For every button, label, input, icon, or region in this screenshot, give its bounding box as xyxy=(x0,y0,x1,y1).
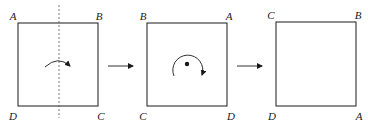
label-p3-top-left: C xyxy=(267,10,274,21)
label-p2-top-right: A xyxy=(226,11,233,22)
label-p2-top-left: B xyxy=(140,11,147,22)
panel-1 xyxy=(18,5,98,118)
label-p3-top-right: B xyxy=(355,10,362,21)
label-p3-bottom-right: A xyxy=(356,111,363,122)
label-p1-top-right: B xyxy=(96,11,103,22)
label-p1-bottom-left: D xyxy=(9,111,17,122)
flip-arrow-icon xyxy=(45,61,70,67)
diagram-canvas xyxy=(0,0,368,135)
center-point xyxy=(185,62,189,66)
label-p1-top-left: A xyxy=(10,11,17,22)
panel-3 xyxy=(276,22,356,106)
label-p2-bottom-right: D xyxy=(227,111,235,122)
square-3 xyxy=(276,22,356,106)
label-p1-bottom-right: C xyxy=(97,111,104,122)
square-1 xyxy=(18,23,98,106)
diagram-stage: A B D C B A C D C B D A xyxy=(0,0,368,135)
label-p3-bottom-left: D xyxy=(268,111,276,122)
panel-2 xyxy=(147,23,227,106)
label-p2-bottom-left: C xyxy=(139,111,146,122)
